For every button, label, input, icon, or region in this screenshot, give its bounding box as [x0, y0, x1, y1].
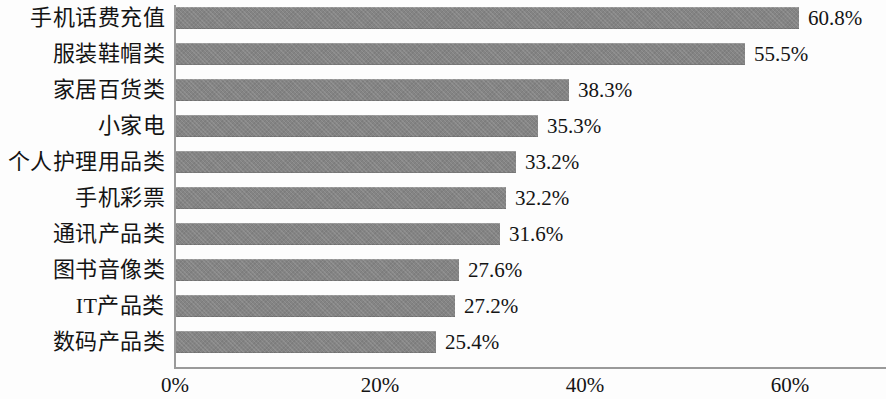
bar-value-label: 27.2% — [455, 295, 518, 317]
bar-value-label: 33.2% — [516, 151, 579, 173]
category-label: 家居百货类 — [0, 72, 165, 108]
bar — [176, 7, 799, 29]
category-label: 数码产品类 — [0, 324, 165, 360]
bar-value-label: 55.5% — [745, 43, 808, 65]
bar — [176, 151, 516, 173]
bar-value-label: 31.6% — [500, 223, 563, 245]
bar-value-label: 35.3% — [538, 115, 601, 137]
y-axis-line — [174, 5, 176, 368]
bar-chart: 手机话费充值 60.8% 服装鞋帽类 55.5% 家居百货类 38.3% 小家电 — [0, 0, 886, 399]
category-label: 通讯产品类 — [0, 216, 165, 252]
category-label: 图书音像类 — [0, 252, 165, 288]
bar — [176, 187, 506, 209]
bar-value-label: 60.8% — [799, 7, 862, 29]
table-row: 图书音像类 27.6% — [0, 252, 886, 288]
table-row: IT产品类 27.2% — [0, 288, 886, 324]
bar-value-label: 25.4% — [436, 331, 499, 353]
category-label: 手机彩票 — [0, 180, 165, 216]
bar — [176, 223, 500, 245]
category-label: 服装鞋帽类 — [0, 36, 165, 72]
x-axis-line — [174, 367, 886, 369]
category-label: IT产品类 — [0, 288, 165, 324]
table-row: 手机彩票 32.2% — [0, 180, 886, 216]
category-label: 小家电 — [0, 108, 165, 144]
bar — [176, 259, 459, 281]
category-label: 手机话费充值 — [0, 0, 165, 36]
table-row: 家居百货类 38.3% — [0, 72, 886, 108]
bar — [176, 295, 455, 317]
table-row: 数码产品类 25.4% — [0, 324, 886, 360]
table-row: 小家电 35.3% — [0, 108, 886, 144]
table-row: 手机话费充值 60.8% — [0, 0, 886, 36]
table-row: 个人护理用品类 33.2% — [0, 144, 886, 180]
bar — [176, 79, 569, 101]
bar-value-label: 32.2% — [506, 187, 569, 209]
bar — [176, 331, 436, 353]
bar-value-label: 38.3% — [569, 79, 632, 101]
x-tick-label: 20% — [361, 371, 400, 399]
x-tick-label: 40% — [566, 371, 605, 399]
table-row: 服装鞋帽类 55.5% — [0, 36, 886, 72]
category-label: 个人护理用品类 — [0, 144, 165, 180]
plot-area: 手机话费充值 60.8% 服装鞋帽类 55.5% 家居百货类 38.3% 小家电 — [0, 0, 886, 365]
bar — [176, 43, 745, 65]
table-row: 通讯产品类 31.6% — [0, 216, 886, 252]
x-tick-label: 60% — [771, 371, 810, 399]
x-axis-ticks: 0% 20% 40% 60% — [0, 371, 886, 399]
bar — [176, 115, 538, 137]
bar-value-label: 27.6% — [459, 259, 522, 281]
x-tick-label: 0% — [161, 371, 189, 399]
